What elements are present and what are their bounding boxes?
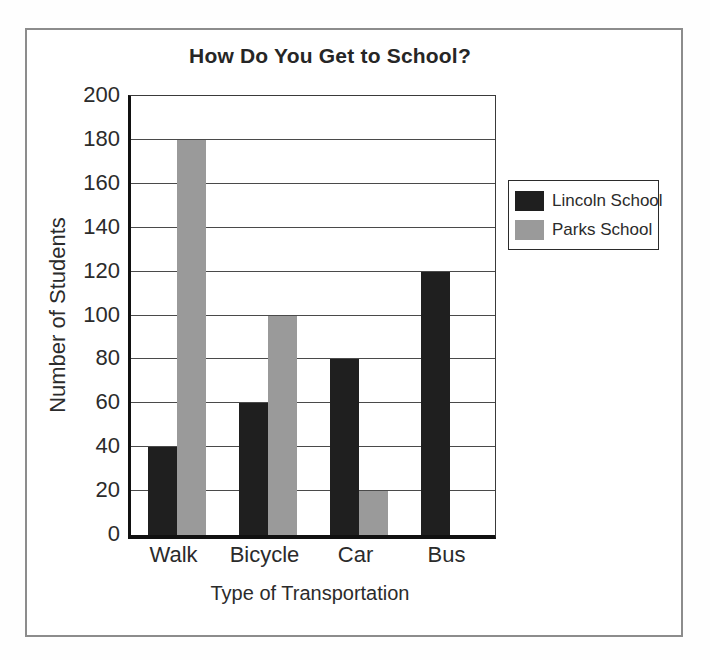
legend-swatch-parks-school <box>515 220 544 240</box>
bar-lincoln-school-car <box>330 359 359 535</box>
x-axis-title: Type of Transportation <box>128 582 492 605</box>
legend-label-lincoln-school: Lincoln School <box>552 191 663 211</box>
y-tick-label-140: 140 <box>27 214 120 240</box>
y-tick-label-0: 0 <box>27 521 120 547</box>
y-tick-label-20: 20 <box>27 477 120 503</box>
plot-area <box>128 95 496 539</box>
legend-swatch-lincoln-school <box>515 191 544 211</box>
y-tick-label-160: 160 <box>27 170 120 196</box>
bar-lincoln-school-walk <box>148 447 177 535</box>
y-tick-label-100: 100 <box>27 302 120 328</box>
x-tick-label-walk: Walk <box>149 542 197 568</box>
bar-group-walk <box>131 96 222 535</box>
x-tick-label-car: Car <box>338 542 373 568</box>
y-tick-label-200: 200 <box>27 82 120 108</box>
x-tick-label-bus: Bus <box>428 542 466 568</box>
y-tick-label-120: 120 <box>27 258 120 284</box>
y-tick-label-80: 80 <box>27 345 120 371</box>
y-tick-label-40: 40 <box>27 433 120 459</box>
x-tick-label-bicycle: Bicycle <box>230 542 300 568</box>
legend-item-lincoln-school: Lincoln School <box>515 190 658 212</box>
y-tick-label-180: 180 <box>27 126 120 152</box>
bar-parks-school-car <box>359 491 388 535</box>
bar-lincoln-school-bicycle <box>239 403 268 535</box>
bar-lincoln-school-bus <box>421 272 450 535</box>
bar-parks-school-bicycle <box>268 316 297 536</box>
chart-title: How Do You Get to School? <box>128 44 532 68</box>
bar-group-bicycle <box>222 96 313 535</box>
chart-frame: How Do You Get to School? Number of Stud… <box>25 28 683 637</box>
legend: Lincoln School Parks School <box>508 180 659 250</box>
bar-group-car <box>313 96 404 535</box>
bar-groups <box>131 96 495 535</box>
y-tick-label-60: 60 <box>27 389 120 415</box>
legend-label-parks-school: Parks School <box>552 220 652 240</box>
bar-parks-school-walk <box>177 140 206 535</box>
bar-group-bus <box>404 96 495 535</box>
legend-item-parks-school: Parks School <box>515 219 658 241</box>
